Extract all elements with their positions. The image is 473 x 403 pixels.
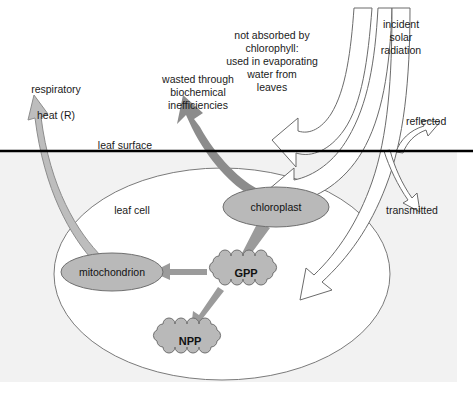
respiratory-heat-line1: respiratory [31,83,81,95]
respiratory-heat-line2-pre: heat ( [37,109,64,121]
respiratory-heat-label: respiratory heat (R) [8,70,104,122]
diagram-canvas: chloroplast mitochondrion GPP NPP respir… [0,0,473,403]
leaf-surface-label: leaf surface [85,139,165,152]
gpp-label: GPP [234,267,257,279]
reflected-label: reflected [406,115,466,128]
chloroplast-label: chloroplast [251,201,302,213]
incident-solar-radiation-label: incident solar radiation [368,18,434,57]
mitochondrion-shape[interactable]: mitochondrion [61,253,163,291]
not-absorbed-label: not absorbed by chlorophyll: used in eva… [208,29,336,94]
leaf-cell-label: leaf cell [100,204,164,217]
npp-shape[interactable]: NPP [153,318,220,353]
npp-label: NPP [179,335,202,347]
mitochondrion-label: mitochondrion [79,266,145,278]
respiratory-heat-line2-post: ) [71,109,75,121]
gpp-shape[interactable]: GPP [209,250,276,285]
chloroplast-shape[interactable]: chloroplast [223,187,329,227]
transmitted-label: transmitted [386,204,458,217]
